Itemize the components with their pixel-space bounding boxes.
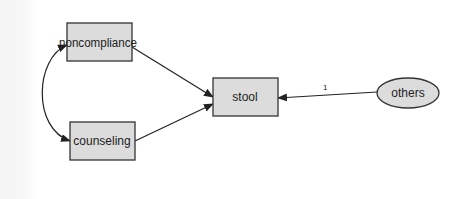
- path-arrow-others-stool[interactable]: [278, 92, 377, 98]
- node-counseling[interactable]: counseling: [70, 122, 135, 160]
- path-arrow-noncompliance-stool[interactable]: [132, 47, 213, 97]
- node-label: counseling: [73, 134, 130, 148]
- node-label: noncompliance: [59, 36, 137, 50]
- node-stool[interactable]: stool: [213, 78, 278, 116]
- path-diagram: 1 noncompliance counseling stool others: [0, 0, 465, 199]
- node-others[interactable]: others: [377, 78, 439, 108]
- covariance-arrow-noncompliance-counseling[interactable]: [42, 45, 70, 141]
- path-arrow-counseling-stool[interactable]: [135, 104, 213, 141]
- node-noncompliance[interactable]: noncompliance: [59, 23, 137, 61]
- path-coefficient-label: 1: [323, 83, 328, 92]
- node-label: others: [391, 86, 424, 100]
- node-label: stool: [232, 90, 257, 104]
